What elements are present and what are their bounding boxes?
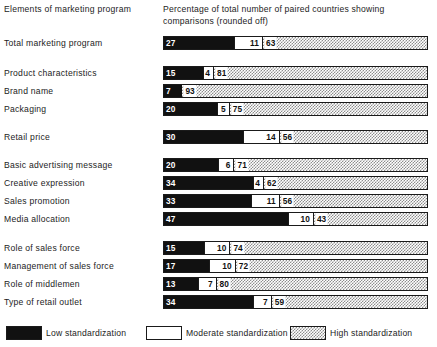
stacked-bar: 793	[163, 84, 428, 98]
row-label: Creative expression	[4, 178, 160, 189]
segment-low-standardization: 7	[164, 85, 182, 97]
segment-moderate-standardization: 6	[218, 159, 234, 171]
segment-value: 15	[166, 67, 175, 79]
segment-value: 27	[166, 37, 175, 49]
segment-value: 80	[219, 278, 230, 290]
segment-value: 4	[255, 177, 260, 189]
segment-low-standardization: 20	[164, 103, 217, 115]
segment-value: 20	[166, 103, 175, 115]
chart-row: Total marketing program271163	[0, 36, 437, 51]
segment-value: 75	[232, 103, 243, 115]
stacked-bar: 301456	[163, 130, 428, 144]
segment-low-standardization: 15	[164, 242, 204, 254]
legend-label: High standardization	[330, 328, 412, 338]
legend-label: Low standardization	[46, 328, 126, 338]
segment-high-standardization: 80	[217, 278, 427, 290]
segment-value: 6	[226, 159, 231, 171]
row-label: Role of middlemen	[4, 279, 160, 290]
segment-value: 59	[274, 296, 285, 308]
segment-value: 30	[166, 131, 175, 143]
segment-high-standardization: 43	[314, 213, 427, 225]
segment-high-standardization: 56	[280, 195, 427, 207]
segment-value: 15	[166, 242, 175, 254]
segment-low-standardization: 34	[164, 296, 253, 308]
segment-low-standardization: 47	[164, 213, 288, 225]
stacked-bar-chart: Elements of marketing program Percentage…	[0, 0, 437, 347]
stacked-bar: 34462	[163, 176, 428, 190]
row-label: Sales promotion	[4, 196, 160, 207]
stacked-bar: 20575	[163, 102, 428, 116]
segment-value: 33	[166, 195, 175, 207]
segment-low-standardization: 34	[164, 177, 253, 189]
row-label: Brand name	[4, 86, 160, 97]
segment-moderate-standardization: 4	[253, 177, 264, 189]
segment-value: 13	[166, 278, 175, 290]
segment-high-standardization: 56	[280, 131, 427, 143]
segment-low-standardization: 33	[164, 195, 251, 207]
legend-item-mod: Moderate standardization	[146, 325, 288, 341]
chart-row: Product characteristics15481	[0, 66, 437, 81]
segment-value: 43	[316, 213, 327, 225]
segment-high-standardization: 71	[234, 159, 427, 171]
row-label: Basic advertising message	[4, 160, 160, 171]
chart-row: Role of middlemen13780	[0, 277, 437, 292]
segment-high-standardization: 74	[230, 242, 427, 254]
segment-high-standardization: 59	[272, 296, 427, 308]
column-header-elements: Elements of marketing program	[4, 4, 164, 15]
legend-item-high: High standardization	[290, 325, 412, 341]
segment-value: 71	[236, 159, 247, 171]
segment-value: 5	[221, 103, 226, 115]
stacked-bar: 271163	[163, 36, 428, 50]
segment-value: 34	[166, 296, 175, 308]
segment-value: 63	[265, 37, 276, 49]
segment-low-standardization: 30	[164, 131, 243, 143]
chart-row: Type of retail outlet34759	[0, 295, 437, 310]
segment-low-standardization: 17	[164, 260, 209, 272]
segment-moderate-standardization: 10	[209, 260, 236, 272]
segment-high-standardization: 72	[236, 260, 427, 272]
legend-swatch-low-icon	[6, 326, 42, 340]
segment-moderate-standardization: 11	[251, 195, 280, 207]
segment-high-standardization: 81	[214, 67, 427, 79]
row-label: Total marketing program	[4, 38, 160, 49]
chart-row: Basic advertising message20671	[0, 158, 437, 173]
chart-row: Management of sales force171072	[0, 259, 437, 274]
row-label: Role of sales force	[4, 243, 160, 254]
segment-high-standardization: 93	[182, 85, 427, 97]
segment-moderate-standardization: 11	[234, 37, 263, 49]
segment-moderate-standardization: 7	[253, 296, 271, 308]
segment-value: 10	[222, 260, 231, 272]
segment-value: 93	[184, 85, 195, 97]
chart-legend: Low standardizationModerate standardizat…	[0, 325, 437, 345]
segment-value: 56	[282, 195, 293, 207]
segment-value: 7	[166, 85, 171, 97]
row-label: Type of retail outlet	[4, 297, 160, 308]
row-label: Media allocation	[4, 214, 160, 225]
column-header-percentage: Percentage of total number of paired cou…	[163, 4, 435, 27]
stacked-bar: 15481	[163, 66, 428, 80]
segment-value: 7	[208, 278, 213, 290]
legend-swatch-high-icon	[290, 326, 326, 340]
chart-row: Media allocation471043	[0, 212, 437, 227]
segment-low-standardization: 20	[164, 159, 218, 171]
segment-value: 74	[232, 242, 243, 254]
segment-value: 81	[216, 67, 227, 79]
segment-value: 10	[300, 213, 309, 225]
stacked-bar: 13780	[163, 277, 428, 291]
segment-value: 11	[267, 195, 276, 207]
segment-low-standardization: 13	[164, 278, 198, 290]
segment-moderate-standardization: 5	[217, 103, 230, 115]
segment-moderate-standardization: 4	[203, 67, 214, 79]
row-label: Management of sales force	[4, 261, 160, 272]
segment-value: 62	[266, 177, 277, 189]
segment-value: 20	[166, 159, 175, 171]
chart-row: Creative expression34462	[0, 176, 437, 191]
segment-value: 7	[263, 296, 268, 308]
legend-item-low: Low standardization	[6, 325, 126, 341]
segment-low-standardization: 15	[164, 67, 203, 79]
stacked-bar: 20671	[163, 158, 428, 172]
segment-moderate-standardization: 10	[288, 213, 314, 225]
segment-high-standardization: 75	[230, 103, 427, 115]
segment-value: 72	[238, 260, 249, 272]
segment-moderate-standardization: 7	[198, 278, 216, 290]
